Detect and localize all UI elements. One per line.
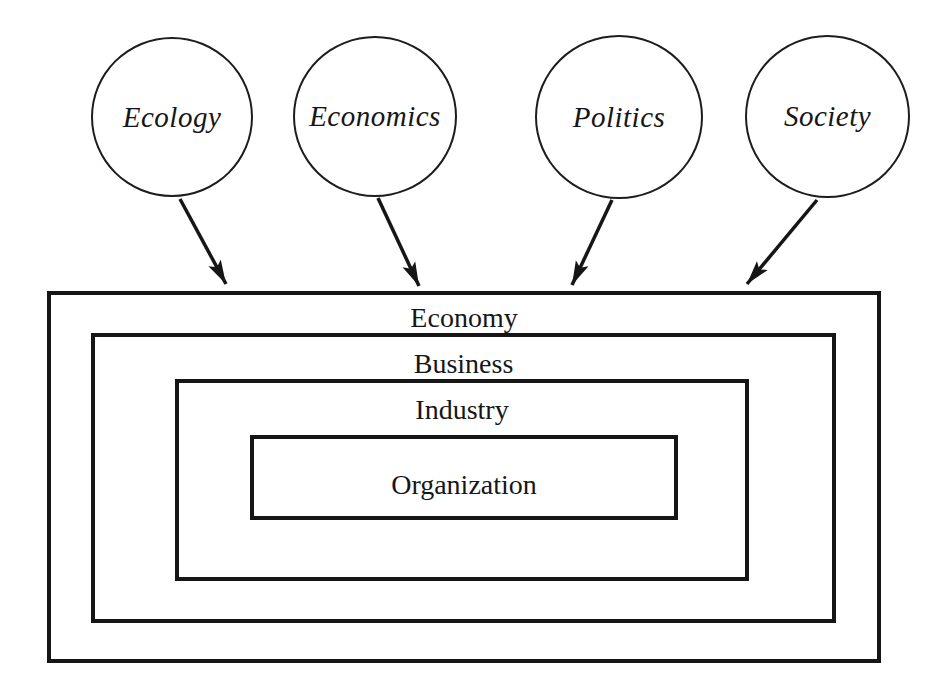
circle-label-society: Society [784, 100, 871, 133]
circle-society: Society [745, 35, 910, 198]
arrow-society [747, 200, 817, 284]
box-label-economy: Economy [47, 302, 881, 334]
arrow-politics [572, 200, 612, 285]
box-label-industry: Industry [175, 394, 749, 426]
box-label-organization: Organization [250, 469, 678, 501]
circle-label-ecology: Ecology [123, 101, 222, 134]
arrow-ecology [180, 199, 226, 284]
circle-label-economics: Economics [309, 100, 441, 133]
circle-label-politics: Politics [573, 101, 666, 134]
arrow-economics [378, 198, 419, 286]
circle-politics: Politics [535, 35, 703, 199]
diagram-canvas: Ecology Economics Politics Society Econo… [0, 0, 949, 694]
circle-ecology: Ecology [91, 37, 253, 197]
box-label-business: Business [91, 348, 836, 380]
circle-economics: Economics [293, 36, 457, 197]
